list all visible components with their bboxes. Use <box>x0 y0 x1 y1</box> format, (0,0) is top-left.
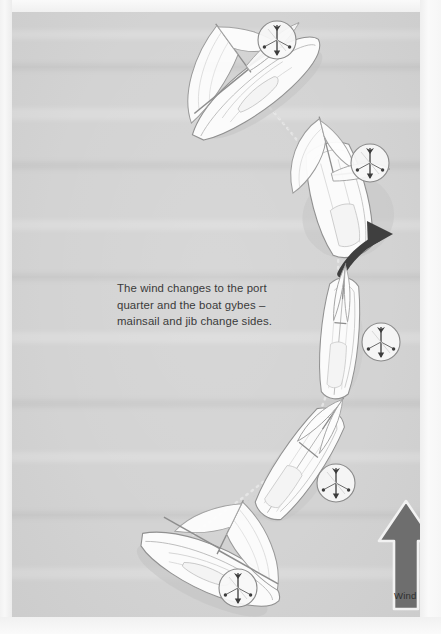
illustration-plate: The wind changes to the port quarter and… <box>12 12 420 617</box>
paper-margin-bottom <box>0 617 441 634</box>
caption-text: The wind changes to the port quarter and… <box>117 280 327 330</box>
wind-vane-1 <box>258 21 296 59</box>
paper-margin-right <box>420 0 441 634</box>
boat-2 <box>277 103 409 269</box>
wind-vane-2 <box>351 144 389 182</box>
wind-vane-4 <box>317 464 355 502</box>
paper-margin-left <box>0 0 12 634</box>
wind-vane-3 <box>362 323 400 361</box>
boat-4 <box>245 385 369 533</box>
wind-arrow-label: Wind <box>394 590 417 601</box>
diagram-page: The wind changes to the port quarter and… <box>0 0 441 634</box>
paper-margin-top <box>0 0 441 12</box>
wind-vane-5 <box>219 569 257 607</box>
